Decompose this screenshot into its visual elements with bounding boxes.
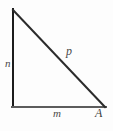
vertex-label-a: A xyxy=(95,107,102,119)
horizontal-leg-label: m xyxy=(53,108,61,119)
vertical-leg-label: n xyxy=(5,58,11,69)
right-triangle-figure: n p m A xyxy=(0,0,113,131)
hypotenuse-line xyxy=(13,10,105,107)
hypotenuse-label: p xyxy=(66,45,72,57)
